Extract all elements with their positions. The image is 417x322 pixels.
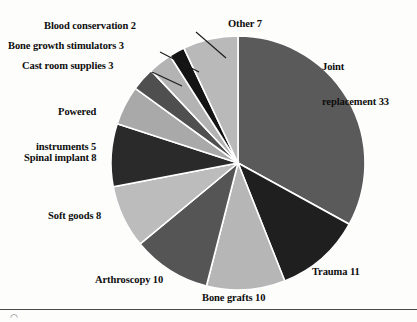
slice-label-joint-replacement-line1: Joint [322, 61, 389, 73]
page-corner-mark: ◠ [10, 313, 19, 321]
slice-label-joint-replacement-line2: replacement 33 [322, 96, 389, 108]
slice-label-soft-goods: Soft goods 8 [48, 210, 101, 222]
slice-label-powered-instruments-line1: Powered [36, 106, 96, 118]
slice-label-cast-room-supplies: Cast room supplies 3 [22, 60, 113, 72]
slice-label-spinal-implant: Spinal implant 8 [24, 152, 97, 164]
slice-label-bone-growth-stimulators: Bone growth stimulators 3 [8, 40, 124, 52]
slice-label-joint-replacement: Joint replacement 33 [322, 38, 389, 130]
slice-label-powered-instruments-line2: instruments 5 [36, 141, 96, 153]
slice-label-bone-grafts: Bone grafts 10 [202, 292, 265, 304]
slice-label-trauma: Trauma 11 [312, 266, 360, 278]
pie-chart-figure: Blood conservation 2 Bone growth stimula… [0, 0, 417, 322]
slice-label-blood-conservation: Blood conservation 2 [44, 20, 136, 32]
slice-label-arthroscopy: Arthroscopy 10 [95, 274, 163, 286]
footer-divider [0, 309, 417, 310]
slice-label-other: Other 7 [228, 18, 262, 30]
